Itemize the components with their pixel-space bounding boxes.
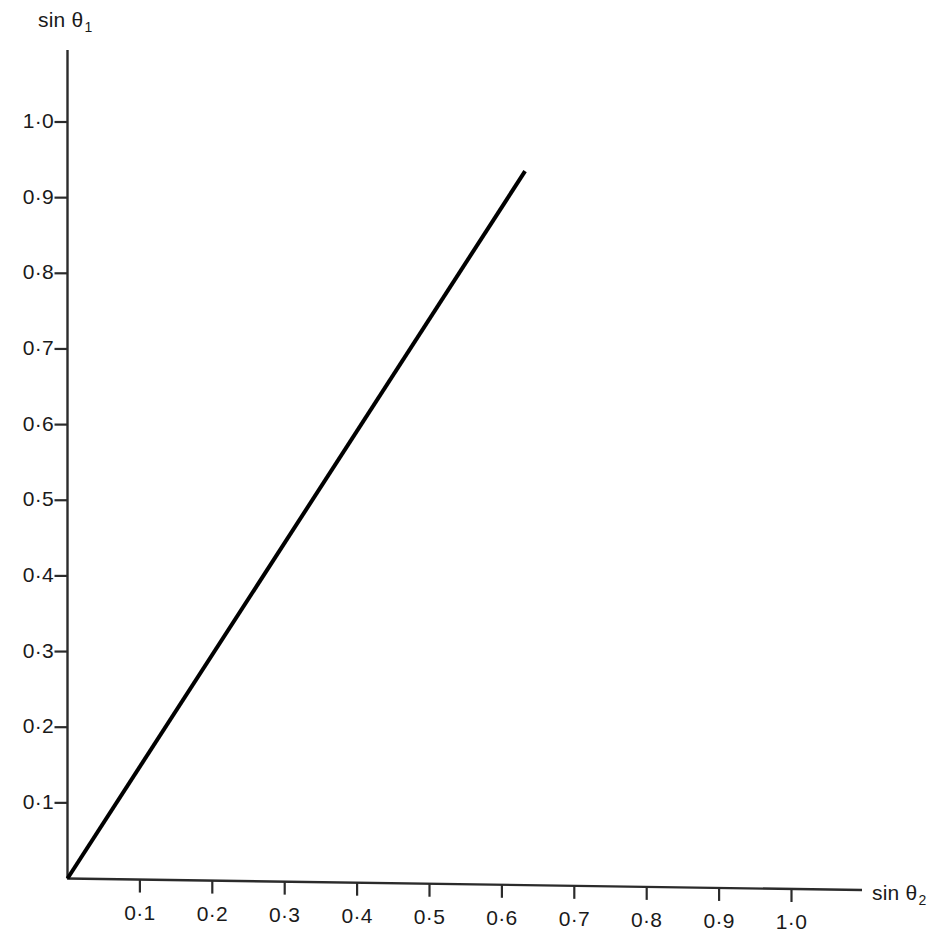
x-tick-label: 0·7	[544, 907, 604, 931]
x-tick-label: 0·9	[689, 909, 749, 933]
x-tick-marks	[140, 880, 792, 902]
y-tick-label: 0·1	[0, 790, 54, 814]
data-series-group	[68, 171, 526, 878]
x-axis-title-symbol: θ	[906, 881, 918, 904]
x-tick-label: 0·1	[110, 901, 170, 925]
axis-group	[67, 50, 862, 890]
y-tick-label: 0·7	[0, 336, 54, 360]
y-axis-title-text: sin	[38, 8, 65, 31]
y-tick-label: 0·5	[0, 487, 54, 511]
y-tick-label: 0·6	[0, 412, 54, 436]
y-tick-label: 0·3	[0, 639, 54, 663]
y-tick-label: 0·9	[0, 185, 54, 209]
x-axis-title: sin θ2	[872, 881, 926, 908]
x-axis-line	[67, 879, 862, 891]
data-line-0	[68, 171, 526, 878]
x-tick-label: 1·0	[762, 910, 822, 934]
y-axis-title-subscript: 1	[83, 19, 92, 35]
y-tick-label: 0·4	[0, 563, 54, 587]
x-tick-label: 0·2	[182, 902, 242, 926]
y-tick-label: 0·2	[0, 714, 54, 738]
y-tick-label: 1·0	[0, 109, 54, 133]
y-axis-title: sin θ1	[38, 8, 92, 35]
x-tick-label: 0·5	[400, 905, 460, 929]
plot-canvas	[0, 0, 943, 936]
figure-root: sin θ1 sin θ2 0·10·20·30·40·50·60·70·80·…	[0, 0, 943, 936]
y-tick-label: 0·8	[0, 260, 54, 284]
x-tick-label: 0·3	[255, 903, 315, 927]
y-axis-title-symbol: θ	[72, 8, 84, 31]
x-tick-label: 0·6	[472, 906, 532, 930]
x-axis-title-text: sin	[872, 881, 899, 904]
y-tick-marks	[55, 122, 68, 803]
x-tick-label: 0·8	[617, 908, 677, 932]
x-axis-title-subscript: 2	[917, 892, 926, 908]
x-tick-label: 0·4	[327, 904, 387, 928]
